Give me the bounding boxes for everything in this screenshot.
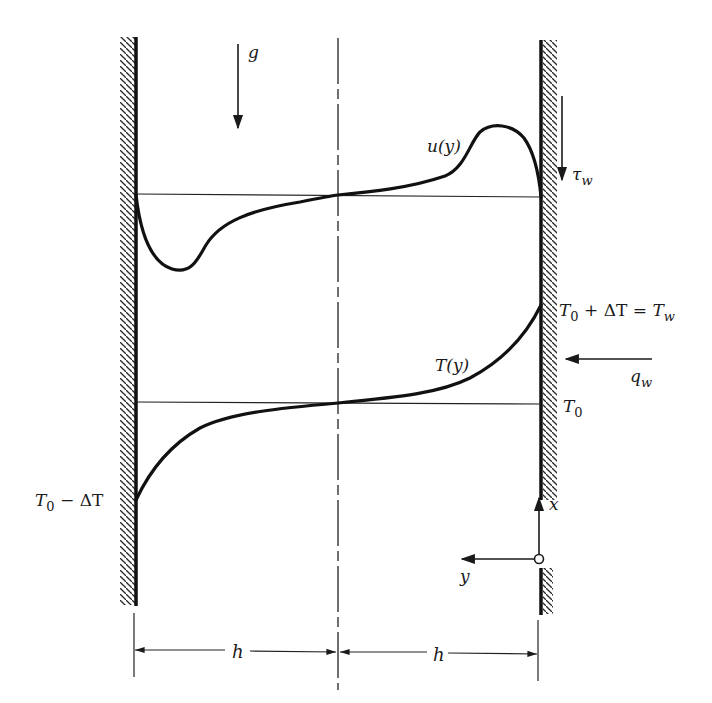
right-half-width-label: h <box>433 644 445 665</box>
heat-flux-indicator: qw <box>566 359 652 390</box>
wall-shear-indicator: τw <box>562 96 593 188</box>
gravity-label: g <box>248 42 259 62</box>
heat-flux-label: qw <box>630 366 652 390</box>
wall-shear-label: τw <box>572 164 593 188</box>
left-half-width-label: h <box>232 641 244 662</box>
reference-temperature-label: T0 <box>563 396 583 420</box>
origin-marker <box>535 555 544 564</box>
right-half-width-arrow-right <box>448 653 537 654</box>
cold-wall-temperature-label: T0 − ΔT <box>35 490 104 514</box>
right-wall-hatching-lower <box>543 568 553 614</box>
right-wall-hatching-upper <box>543 40 557 500</box>
velocity-profile-label: u(y) <box>427 136 461 156</box>
left-half-width-arrow-right <box>250 651 336 652</box>
left-wall-hatching <box>120 37 135 605</box>
right-wall <box>541 40 557 615</box>
gravity-indicator: g <box>238 42 259 128</box>
y-axis-label: y <box>459 566 470 586</box>
hot-wall-temperature-label: T0 + ΔT = Tw <box>559 300 675 324</box>
temperature-profile-label: T(y) <box>435 355 469 375</box>
left-wall <box>120 37 136 606</box>
dimension-annotations: h h <box>134 613 538 681</box>
x-axis-label: x <box>549 494 559 514</box>
convection-channel-diagram: g u(y) τw T(y) T0 + ΔT = Tw qw T0 T0 − Δ… <box>0 0 712 703</box>
